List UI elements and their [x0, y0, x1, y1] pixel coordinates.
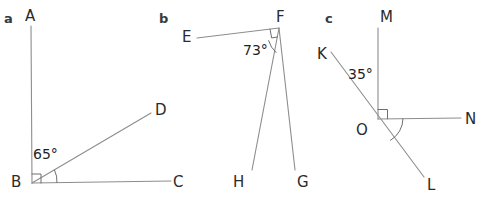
- panel-letter-c: c: [325, 11, 333, 26]
- vertex-label-H: H: [233, 173, 244, 191]
- vertex-label-C: C: [173, 173, 183, 191]
- vertex-label-A: A: [25, 7, 36, 25]
- segment-ON: [378, 118, 461, 119]
- vertex-label-D: D: [155, 101, 167, 119]
- angle-label-65: 65°: [33, 146, 58, 162]
- geometry-figure: a 65° A B C D b 73° E F: [0, 0, 492, 204]
- angle-label-35: 35°: [348, 66, 373, 82]
- vertex-label-O: O: [356, 121, 368, 139]
- angle-arc-NOL: [391, 119, 404, 141]
- segment-FE: [197, 28, 279, 38]
- panel-b: b 73° E F G H: [159, 8, 309, 191]
- vertex-label-F: F: [276, 8, 285, 26]
- segment-BA: [31, 26, 32, 183]
- angle-arc-DBC: [55, 170, 58, 183]
- vertex-label-B: B: [11, 173, 21, 191]
- panel-letter-a: a: [4, 11, 13, 26]
- figure-canvas: a 65° A B C D b 73° E F: [0, 0, 492, 204]
- right-angle-marker-F: [270, 29, 277, 38]
- vertex-label-L: L: [427, 176, 436, 194]
- vertex-label-K: K: [317, 45, 328, 63]
- angle-label-73: 73°: [243, 42, 268, 58]
- panel-letter-b: b: [159, 11, 168, 26]
- vertex-label-E: E: [182, 28, 191, 46]
- panel-c: c 35° K L M N O: [317, 8, 476, 194]
- vertex-label-M: M: [380, 8, 393, 26]
- panel-a: a 65° A B C D: [4, 7, 183, 191]
- segment-BC: [32, 181, 171, 183]
- segment-FG: [279, 28, 295, 170]
- vertex-label-G: G: [297, 173, 309, 191]
- vertex-label-N: N: [465, 110, 476, 128]
